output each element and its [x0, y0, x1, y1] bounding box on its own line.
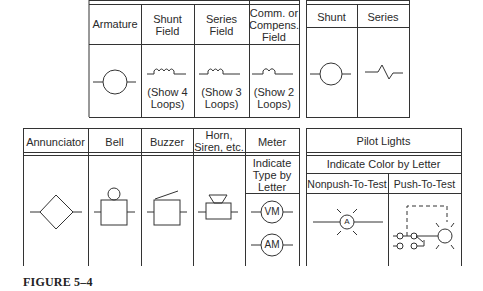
header-horn-line1: Horn, [193, 129, 245, 141]
series-field-coil-symbol [199, 69, 240, 74]
annunciator-symbol [30, 195, 82, 229]
header-meter: Meter [245, 136, 299, 148]
pilot-lights-title: Pilot Lights [306, 135, 461, 147]
push-to-test-lamp-symbol [393, 206, 454, 249]
note-shunt-field-line2: Loops) [141, 98, 194, 110]
figure-caption: FIGURE 5–4 [23, 275, 93, 290]
meter-note-line3: Letter [245, 181, 299, 193]
header-generator-shunt: Shunt [306, 11, 357, 23]
meter-note-line2: Type by [245, 169, 299, 181]
header-generator-series: Series [357, 11, 409, 23]
header-buzzer: Buzzer [141, 136, 193, 148]
header-generator-shunt-label: Shunt [306, 11, 357, 23]
header-buzzer-label: Buzzer [141, 136, 193, 148]
header-nonpush-to-test: Nonpush-To-Test [306, 178, 388, 190]
header-series-field-line2: Field [194, 25, 249, 37]
header-generator-series-label: Series [357, 11, 409, 23]
header-armature: Armature [89, 18, 141, 30]
ammeter-label: AM [261, 239, 283, 251]
pilot-lights-subtitle: Indicate Color by Letter [306, 158, 461, 170]
meter-note-line1: Indicate [245, 157, 299, 169]
note-comm-field-line2: Loops) [249, 98, 299, 110]
note-shunt-field-line1: (Show 4 [141, 86, 194, 98]
header-shunt-field: Shunt Field [141, 13, 194, 37]
header-meter-label: Meter [245, 136, 299, 148]
buzzer-symbol [147, 191, 187, 225]
note-comm-field-line1: (Show 2 [249, 86, 299, 98]
header-horn-line2: Siren, etc. [193, 141, 245, 153]
header-shunt-field-line2: Field [141, 25, 194, 37]
header-series-field-line1: Series [194, 13, 249, 25]
meter-note: Indicate Type by Letter [245, 157, 299, 193]
header-comm-field-line2: Compens. [249, 19, 299, 31]
header-horn: Horn, Siren, etc. [193, 129, 245, 153]
note-series-field-line2: Loops) [194, 98, 249, 110]
header-armature-label: Armature [89, 18, 141, 30]
header-comm-field-line3: Field [249, 31, 299, 43]
header-annunciator-label: Annunciator [23, 136, 88, 148]
header-push-to-test: Push-To-Test [388, 178, 461, 190]
shunt-field-coil-symbol [147, 69, 186, 74]
header-annunciator: Annunciator [23, 136, 88, 148]
note-comm-field: (Show 2 Loops) [249, 86, 299, 110]
header-comm-field-line1: Comm. or [249, 7, 299, 19]
note-shunt-field: (Show 4 Loops) [141, 86, 194, 110]
note-series-field-line1: (Show 3 [194, 86, 249, 98]
bell-symbol [94, 188, 135, 225]
generator-shunt-symbol [310, 63, 351, 85]
voltmeter-label: VM [261, 206, 283, 218]
header-shunt-field-line1: Shunt [141, 13, 194, 25]
armature-symbol [93, 70, 136, 94]
generator-series-symbol [365, 65, 403, 79]
header-bell-label: Bell [88, 136, 141, 148]
comm-field-coil-symbol [252, 69, 293, 74]
horn-symbol [198, 195, 238, 219]
note-series-field: (Show 3 Loops) [194, 86, 249, 110]
header-series-field: Series Field [194, 13, 249, 37]
lamp-color-label: A [341, 217, 353, 227]
header-bell: Bell [88, 136, 141, 148]
header-comm-field: Comm. or Compens. Field [249, 7, 299, 43]
